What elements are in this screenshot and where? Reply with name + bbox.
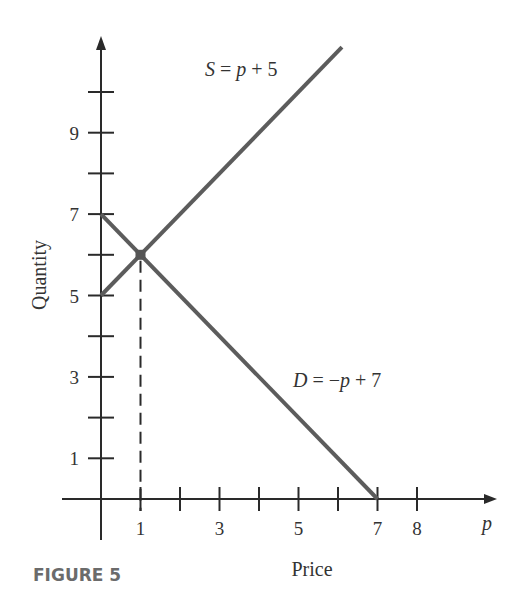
supply-demand-chart: 1357813579 S = p + 5 D = −p + 7 p Price … [0,0,524,609]
x-tick-label: 5 [294,518,304,539]
y-tick-label: 7 [70,204,80,225]
y-tick-label: 9 [70,123,80,144]
demand-eq-p: p [338,369,350,392]
supply-eq-p: p [234,58,246,81]
supply-eq-const: + 5 [246,58,277,80]
x-axis-symbol: p [480,512,492,535]
y-tick-label: 5 [70,286,80,307]
supply-eq-s: S [205,58,215,80]
demand-eq-const: + 7 [350,369,381,391]
supply-equation-label: S = p + 5 [205,58,278,81]
figure-label: FIGURE 5 [33,565,121,585]
equilibrium-point [136,250,146,260]
x-tick-label: 8 [412,518,422,539]
y-tick-label: 3 [70,367,80,388]
y-axis-arrow-icon [96,36,106,50]
x-axis-title: Price [291,558,332,580]
y-tick-label: 1 [70,448,80,469]
supply-eq-eq: = [215,58,236,80]
y-axis-title: Quantity [28,240,51,310]
x-axis-arrow-icon [484,494,497,504]
tick-labels: 1357813579 [70,123,422,539]
ticks [88,92,417,511]
x-tick-label: 3 [215,518,225,539]
x-tick-label: 7 [373,518,383,539]
series-lines [101,47,378,511]
demand-eq-d: D [292,369,308,391]
demand-eq-eq: = − [307,369,340,391]
demand-equation-label: D = −p + 7 [292,369,381,392]
x-tick-label: 1 [136,518,146,539]
